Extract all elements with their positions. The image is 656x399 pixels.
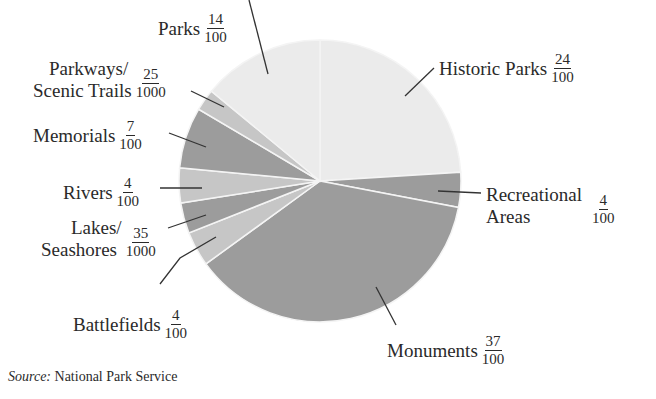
label-battlefields: Battlefields 4 100 <box>73 308 187 341</box>
label-name: Historic Parks <box>439 59 547 79</box>
label-name: Memorials <box>33 126 115 146</box>
label-name: Battlefields <box>73 315 161 335</box>
fraction: 37 100 <box>482 334 505 367</box>
source-prefix: Source: <box>8 369 51 384</box>
label-rivers: Rivers 4 100 <box>63 176 139 209</box>
label-parks: Parks 14 100 <box>158 12 227 45</box>
source-text: National Park Service <box>55 369 178 384</box>
label-name: Parkways/ Scenic Trails <box>33 58 132 102</box>
label-name: Recreational Areas <box>486 184 582 228</box>
source-note: Source: National Park Service <box>8 369 177 385</box>
label-recreational-areas: Recreational Areas 4 100 <box>486 184 615 228</box>
fraction: 14 100 <box>204 12 227 45</box>
label-name: Rivers <box>63 183 113 203</box>
label-historic-parks: Historic Parks 24 100 <box>439 52 574 85</box>
fraction: 7 100 <box>119 119 142 152</box>
label-name: Lakes/ Seashores <box>41 217 122 261</box>
fraction: 4 100 <box>165 308 188 341</box>
label-lakes: Lakes/ Seashores 35 1000 <box>41 217 156 261</box>
label-memorials: Memorials 7 100 <box>33 119 142 152</box>
fraction: 4 100 <box>117 176 140 209</box>
label-name: Monuments <box>387 341 478 361</box>
fraction: 4 100 <box>592 193 615 226</box>
fraction: 35 1000 <box>126 226 156 259</box>
label-name: Parks <box>158 19 200 39</box>
fraction: 24 100 <box>551 52 574 85</box>
label-monuments: Monuments 37 100 <box>387 334 504 367</box>
fraction: 25 1000 <box>136 67 166 100</box>
label-parkways: Parkways/ Scenic Trails 25 1000 <box>33 58 166 102</box>
